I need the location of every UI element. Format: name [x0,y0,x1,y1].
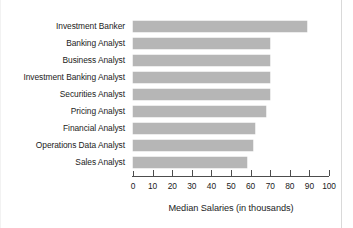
plot-area [133,18,329,171]
bar [133,123,255,134]
bar [133,38,270,49]
x-axis-tick [211,170,212,176]
x-axis-title: Median Salaries (in thousands) [133,203,329,213]
category-label: Pricing Analyst [71,103,125,120]
bar [133,72,270,83]
category-label: Investment Banking Analyst [23,69,125,86]
x-axis-tick [270,170,271,176]
x-axis-tick [251,170,252,176]
bar [133,55,270,66]
x-axis-tick [290,170,291,176]
category-label: Operations Data Analyst [36,137,125,154]
figure-right-border [341,0,342,228]
x-axis-tick [153,170,154,176]
bar [133,157,247,168]
category-label: Securities Analyst [60,86,125,103]
x-axis-tick [192,170,193,176]
x-axis-tick [231,170,232,176]
x-axis-tick [172,170,173,176]
x-axis-tick [309,170,310,176]
bar [133,140,253,151]
bar-chart-figure: Investment BankerBanking AnalystBusiness… [0,0,353,228]
category-label: Business Analyst [62,52,125,69]
bar [133,89,270,100]
x-axis-tick [329,170,330,176]
x-axis-tick [133,171,134,176]
category-axis-labels: Investment BankerBanking AnalystBusiness… [0,18,129,171]
bar [133,106,266,117]
category-label: Sales Analyst [75,154,125,171]
category-label: Financial Analyst [63,120,125,137]
x-axis-tick-label: 100 [316,181,342,191]
category-label: Investment Banker [56,18,125,35]
bar [133,21,307,32]
category-label: Banking Analyst [66,35,125,52]
x-axis-line [132,176,329,177]
